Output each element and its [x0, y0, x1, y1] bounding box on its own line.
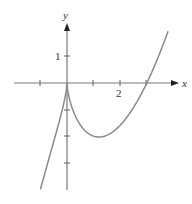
y-axis-label: y [62, 9, 68, 21]
x-axis-label: x [181, 77, 187, 89]
function-graph: x y 2 1 [0, 0, 192, 204]
y-axis-arrow-icon [64, 23, 70, 31]
y-tick-label-1: 1 [55, 50, 61, 62]
x-tick-label-2: 2 [116, 87, 122, 99]
x-axis-arrow-icon [171, 80, 179, 86]
